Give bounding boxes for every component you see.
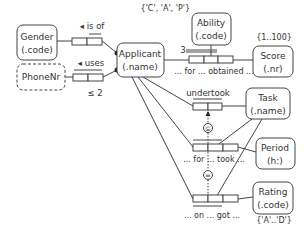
entity-ref: (.nr)	[263, 64, 282, 74]
value-constraint-rating: {'A'..'D'}	[256, 216, 292, 225]
entity-task[interactable]: Task (.name)	[246, 88, 290, 119]
entity-ref: (h:)	[267, 156, 283, 166]
value-constraint-score: {1..100}	[256, 33, 292, 42]
entity-phonenr[interactable]: PhoneNr	[17, 64, 65, 90]
entity-name: Ability	[197, 18, 226, 28]
entity-name: Period	[261, 143, 289, 153]
entity-score[interactable]: Score (.nr)	[253, 46, 293, 77]
orm-diagram: Gender (.code) PhoneNr Applicant (.name)…	[0, 0, 307, 230]
fact-type-uses[interactable]: ◂ uses ≤ 2	[73, 58, 105, 98]
entity-ref: (.code)	[21, 45, 53, 55]
subset-symbol: ⊆	[205, 125, 211, 133]
entity-gender[interactable]: Gender (.code)	[17, 25, 57, 60]
reading-label: undertook	[186, 88, 230, 98]
entity-name: Rating	[258, 187, 287, 197]
entity-name: PhoneNr	[22, 72, 61, 82]
fact-type-undertook[interactable]: undertook	[186, 88, 230, 110]
reading-label: ... on ... got ...	[184, 211, 240, 220]
entity-applicant[interactable]: Applicant (.name)	[117, 43, 164, 77]
reading-label: ... for ... took ...	[183, 155, 245, 164]
entity-ref: (.name)	[122, 62, 157, 72]
fact-type-for-took[interactable]: ... for ... took ...	[183, 140, 245, 164]
reading-label: ... for ... obtained ...	[174, 67, 253, 76]
frequency-constraint: ≤ 2	[87, 88, 102, 98]
reading-label: ◂ is of	[80, 21, 106, 31]
subset-constraint[interactable]: ⊆	[204, 111, 213, 144]
entity-period[interactable]: Period (h:)	[256, 138, 295, 169]
entity-name: Task	[257, 93, 278, 103]
entity-ability[interactable]: Ability (.code)	[192, 13, 231, 45]
entity-name: Score	[260, 51, 286, 61]
entity-ref: (.code)	[195, 31, 227, 41]
entity-name: Gender	[20, 32, 53, 42]
fact-type-is-of[interactable]: ◂ is of	[72, 21, 105, 45]
entity-name: Applicant	[119, 49, 162, 59]
reading-label: ◂ uses	[78, 58, 105, 68]
frequency-constraint: 3	[180, 45, 185, 55]
entity-ref: (.code)	[257, 200, 289, 210]
equality-symbol: =	[205, 172, 211, 180]
entity-ref: (.name)	[250, 106, 285, 116]
value-constraint-ability: {'C', 'A', 'P'}	[141, 4, 190, 13]
entity-rating[interactable]: Rating (.code)	[253, 182, 293, 214]
